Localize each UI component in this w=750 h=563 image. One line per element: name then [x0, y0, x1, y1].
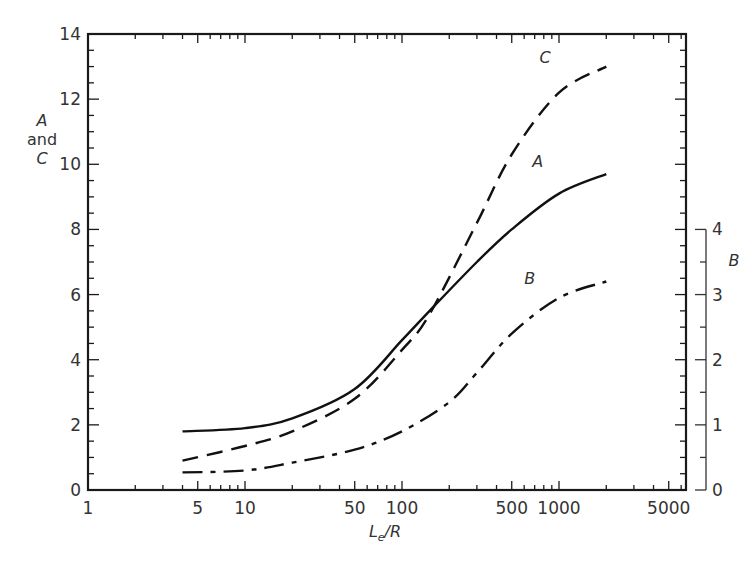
y-tick-label-right: 3	[712, 285, 723, 305]
series-C	[183, 67, 607, 461]
x-tick-label: 100	[386, 498, 418, 518]
y-label-left-and: and	[27, 130, 57, 149]
y-tick-label-right: 2	[712, 350, 723, 370]
x-tick-label: 1	[83, 498, 94, 518]
x-tick-label: 1000	[537, 498, 580, 518]
x-axis-label: Le/R	[369, 522, 401, 544]
y-axis-right: 01234	[695, 219, 723, 500]
y-tick-label-left: 2	[70, 415, 81, 435]
y-tick-label-right: 1	[712, 415, 723, 435]
y-axis-left: 02468101214	[59, 24, 686, 500]
x-tick-label: 5	[192, 498, 203, 518]
x-tick-label: 10	[234, 498, 256, 518]
y-tick-label-left: 14	[59, 24, 81, 44]
curve-label-C: C	[539, 48, 551, 67]
x-tick-label: 500	[496, 498, 528, 518]
y-tick-label-left: 0	[70, 480, 81, 500]
y-tick-label-right: 4	[712, 219, 723, 239]
y-tick-label-left: 8	[70, 219, 81, 239]
curve-label-B: B	[524, 269, 535, 288]
y-label-right-B: B	[729, 251, 740, 270]
plot-border	[88, 34, 686, 490]
curve-label-A: A	[531, 152, 543, 171]
data-series: CAB	[183, 48, 607, 473]
y-tick-label-left: 4	[70, 350, 81, 370]
x-axis: 15105010050010005000	[83, 34, 691, 518]
series-A	[183, 174, 607, 431]
x-tick-label: 50	[344, 498, 366, 518]
y-tick-label-left: 10	[59, 154, 81, 174]
axis-labels: A and C B Le/R	[27, 111, 740, 544]
y-tick-label-left: 12	[59, 89, 81, 109]
x-tick-label: 5000	[647, 498, 690, 518]
series-B	[183, 282, 607, 473]
y-tick-label-left: 6	[70, 285, 81, 305]
y-tick-label-right: 0	[712, 480, 723, 500]
y-label-left-A: A	[36, 111, 48, 130]
chart: 15105010050010005000 02468101214 01234 C…	[0, 0, 750, 563]
plot-frame	[88, 34, 686, 490]
y-label-left-C: C	[36, 149, 48, 168]
